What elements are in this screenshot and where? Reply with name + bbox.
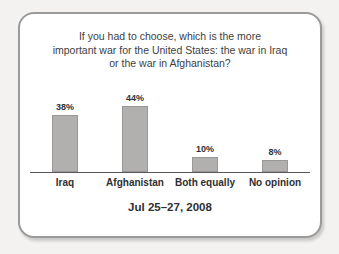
bar	[192, 157, 218, 172]
bar	[262, 160, 288, 172]
bar	[122, 106, 148, 172]
bar-value-label: 10%	[196, 144, 214, 154]
bar-value-label: 8%	[268, 147, 281, 157]
category-labels-row: IraqAfghanistanBoth equallyNo opinion	[30, 172, 310, 188]
bar-group: 38%	[30, 92, 100, 172]
poll-chart-card: If you had to choose, which is the more …	[18, 12, 322, 238]
bar-category-label: Afghanistan	[100, 177, 170, 188]
chart-title-line-1: If you had to choose, which is the more	[20, 30, 320, 44]
survey-date-label: Jul 25–27, 2008	[20, 201, 320, 213]
chart-title-line-3: or the war in Afghanistan?	[20, 57, 320, 71]
chart-title-line-2: important war for the United States: the…	[20, 44, 320, 58]
bars-row: 38%44%10%8%	[30, 92, 310, 172]
bar-category-label: Both equally	[170, 177, 240, 188]
bar-value-label: 38%	[56, 102, 74, 112]
bar-chart: 38%44%10%8% IraqAfghanistanBoth equallyN…	[20, 92, 320, 188]
bar-category-label: Iraq	[30, 177, 100, 188]
bar-group: 8%	[240, 92, 310, 172]
page-background: If you had to choose, which is the more …	[0, 0, 339, 254]
chart-title: If you had to choose, which is the more …	[20, 30, 320, 71]
bar-category-label: No opinion	[240, 177, 310, 188]
bar	[52, 115, 78, 172]
bar-value-label: 44%	[126, 93, 144, 103]
bar-group: 10%	[170, 92, 240, 172]
bar-group: 44%	[100, 92, 170, 172]
